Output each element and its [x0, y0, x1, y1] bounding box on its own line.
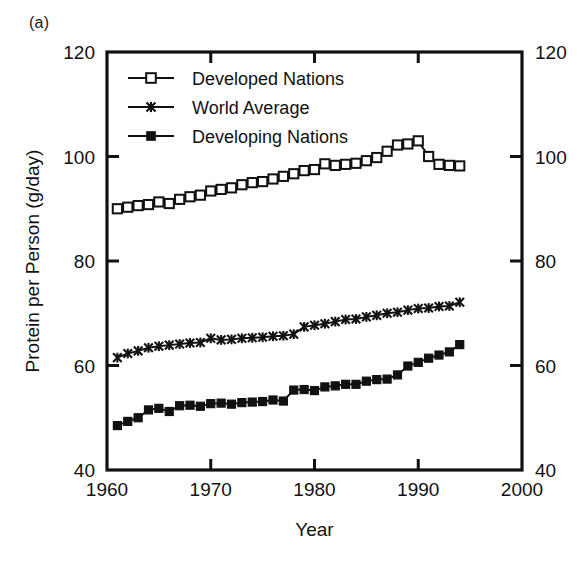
data-point-marker	[456, 341, 464, 349]
y-tick-label-left: 120	[63, 42, 95, 63]
data-point-marker	[434, 160, 443, 169]
data-point-marker	[176, 402, 184, 410]
data-point-marker	[279, 397, 287, 405]
y-tick-label-right: 40	[535, 460, 556, 481]
legend-item-world-average: World Average	[128, 98, 309, 118]
data-point-marker	[217, 399, 225, 407]
series-world-average	[113, 297, 464, 362]
x-axis-title: Year	[295, 519, 334, 540]
data-point-marker	[134, 201, 143, 210]
data-point-marker	[165, 199, 174, 208]
data-point-marker	[342, 380, 350, 388]
x-tick-label: 1970	[190, 479, 232, 500]
x-tick-label: 2000	[501, 479, 543, 500]
y-tick-label-right: 60	[535, 356, 556, 377]
data-point-marker	[362, 377, 370, 385]
data-point-marker	[258, 177, 267, 186]
data-point-marker	[237, 180, 246, 189]
data-point-marker	[362, 156, 371, 165]
data-point-marker	[404, 362, 412, 370]
data-point-marker	[424, 152, 433, 161]
data-point-marker	[248, 398, 256, 406]
data-point-marker	[144, 200, 153, 209]
protein-per-person-chart: Developed NationsWorld AverageDeveloping…	[0, 0, 588, 569]
data-point-marker	[147, 132, 155, 140]
data-point-marker	[414, 136, 423, 145]
series-developing-nations	[113, 341, 463, 430]
data-point-marker	[196, 402, 204, 410]
data-point-marker	[154, 197, 163, 206]
data-point-marker	[445, 161, 454, 170]
data-point-marker	[311, 387, 319, 395]
data-point-marker	[394, 371, 402, 379]
data-point-marker	[238, 399, 246, 407]
data-point-marker	[383, 375, 391, 383]
data-point-marker	[351, 159, 360, 168]
data-point-marker	[269, 396, 277, 404]
data-point-marker	[175, 195, 184, 204]
series-developed-nations	[113, 136, 465, 213]
y-tick-label-left: 40	[74, 460, 95, 481]
data-point-marker	[300, 166, 309, 175]
x-tick-label: 1980	[293, 479, 335, 500]
data-point-marker	[373, 376, 381, 384]
data-point-marker	[352, 380, 360, 388]
data-point-marker	[320, 159, 329, 168]
data-point-marker	[113, 204, 122, 213]
data-point-marker	[145, 406, 153, 414]
data-point-marker	[165, 407, 173, 415]
data-point-marker	[435, 351, 443, 359]
y-tick-label-left: 80	[74, 251, 95, 272]
data-point-marker	[455, 161, 464, 170]
data-point-marker	[113, 422, 121, 430]
x-tick-label: 1990	[397, 479, 439, 500]
data-point-marker	[425, 354, 433, 362]
data-point-marker	[228, 400, 236, 408]
data-point-marker	[331, 161, 340, 170]
legend-label: World Average	[192, 98, 309, 118]
data-point-marker	[134, 414, 142, 422]
y-tick-label-right: 80	[535, 251, 556, 272]
data-point-marker	[268, 174, 277, 183]
data-point-marker	[393, 140, 402, 149]
data-point-marker	[279, 172, 288, 181]
data-point-marker	[445, 348, 453, 356]
data-point-marker	[217, 185, 226, 194]
figure-container: (a) Developed NationsWorld AverageDevelo…	[0, 0, 588, 569]
data-point-marker	[146, 73, 156, 83]
data-point-marker	[341, 160, 350, 169]
x-tick-label: 1960	[86, 479, 128, 500]
legend-layer: Developed NationsWorld AverageDeveloping…	[128, 69, 348, 147]
legend-item-developing-nations: Developing Nations	[128, 127, 348, 147]
data-point-marker	[207, 400, 215, 408]
data-point-marker	[186, 401, 194, 409]
data-point-marker	[403, 139, 412, 148]
data-point-marker	[310, 165, 319, 174]
data-point-marker	[372, 153, 381, 162]
data-point-marker	[185, 192, 194, 201]
data-point-marker	[414, 358, 422, 366]
legend-item-developed-nations: Developed Nations	[128, 69, 344, 89]
series-layer	[113, 136, 465, 429]
data-point-marker	[289, 169, 298, 178]
data-point-marker	[290, 386, 298, 394]
data-point-marker	[331, 382, 339, 390]
data-point-marker	[123, 203, 132, 212]
data-point-marker	[300, 386, 308, 394]
legend-label: Developed Nations	[192, 69, 344, 89]
data-point-marker	[383, 147, 392, 156]
data-point-marker	[248, 178, 257, 187]
data-point-marker	[196, 191, 205, 200]
data-point-marker	[321, 383, 329, 391]
y-tick-label-left: 60	[74, 356, 95, 377]
y-axis-title: Protein per Person (g/day)	[22, 150, 43, 373]
y-tick-label-right: 120	[535, 42, 567, 63]
legend-label: Developing Nations	[192, 127, 348, 147]
data-point-marker	[124, 417, 132, 425]
y-tick-label-right: 100	[535, 147, 567, 168]
data-point-marker	[259, 398, 267, 406]
y-tick-label-left: 100	[63, 147, 95, 168]
data-point-marker	[227, 183, 236, 192]
data-point-marker	[206, 186, 215, 195]
data-point-marker	[155, 404, 163, 412]
